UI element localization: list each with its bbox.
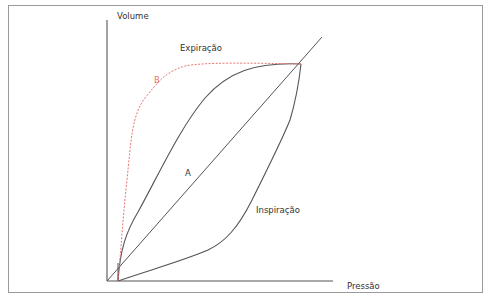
expiration-label: Expiração [180,44,222,53]
curve-b-label: B [154,76,160,85]
pv-loop-diagram [0,0,491,301]
curve-a-label: A [185,169,191,178]
y-axis-label: Volume [117,12,149,21]
compliance-line [107,37,322,281]
curve-b [118,63,301,281]
inspiration-label: Inspiração [256,206,300,215]
expiration-curve [118,64,301,281]
inspiration-curve [118,64,301,281]
x-axis-label: Pressão [347,282,380,291]
